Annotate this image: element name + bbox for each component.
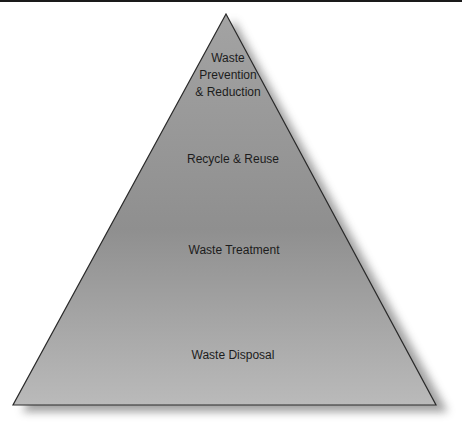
level-1-line-3: & Reduction <box>195 84 260 101</box>
level-1-line-2: Prevention <box>195 67 260 84</box>
level-waste-prevention-reduction: Waste Prevention & Reduction <box>195 50 260 101</box>
level-recycle-reuse: Recycle & Reuse <box>187 151 279 168</box>
level-1-line-1: Waste <box>195 50 260 67</box>
level-waste-treatment: Waste Treatment <box>189 242 280 259</box>
level-waste-disposal: Waste Disposal <box>192 347 275 364</box>
